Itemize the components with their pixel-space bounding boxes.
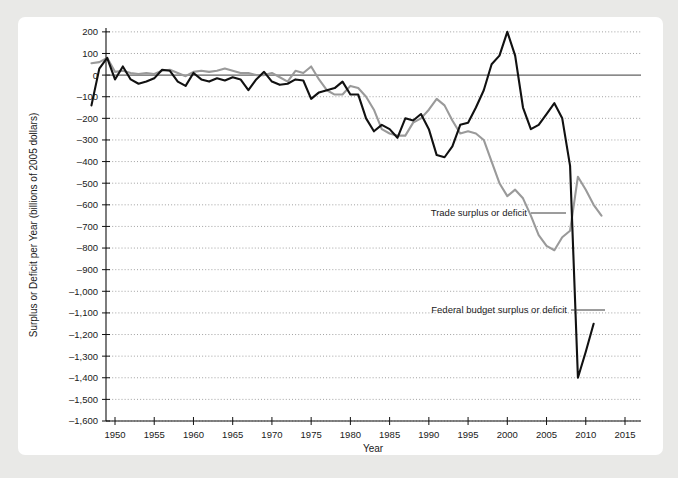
y-tick-label-12: –1,000 [69, 286, 98, 297]
x-tick-label-9: 1995 [458, 429, 479, 440]
y-tick-labels-group: 2001000–100–200–300–400–500–600–700–800–… [69, 26, 98, 426]
x-tick-label-4: 1970 [261, 429, 282, 440]
federal-annotation-text: Federal budget surplus or deficit [431, 304, 567, 315]
x-tick-label-6: 1980 [340, 429, 361, 440]
x-tick-label-10: 2000 [497, 429, 518, 440]
x-tick-label-1: 1955 [144, 429, 165, 440]
y-tick-label-18: –1,600 [69, 415, 98, 426]
y-tick-label-0: 200 [82, 26, 98, 37]
x-tick-label-12: 2010 [575, 429, 596, 440]
y-tick-label-14: –1,200 [69, 329, 98, 340]
y-tick-label-9: –700 [77, 221, 98, 232]
trade-annotation-text: Trade surplus or deficit [431, 207, 528, 218]
x-tick-label-2: 1960 [183, 429, 204, 440]
y-tick-label-13: –1,100 [69, 307, 98, 318]
y-tick-label-5: –300 [77, 134, 98, 145]
y-tick-label-16: –1,400 [69, 372, 98, 383]
x-tick-label-5: 1975 [301, 429, 322, 440]
gridlines-group [106, 32, 641, 421]
x-tick-label-8: 1990 [418, 429, 439, 440]
y-tick-label-6: –400 [77, 156, 98, 167]
y-tick-label-10: –800 [77, 242, 98, 253]
y-tick-label-7: –500 [77, 178, 98, 189]
y-tick-label-1: 100 [82, 48, 98, 59]
x-tick-label-0: 1950 [104, 429, 125, 440]
x-axis-title: Year [363, 443, 384, 454]
x-tick-label-11: 2005 [536, 429, 557, 440]
y-axis-title: Surplus or Deficit per Year (billions of… [28, 113, 39, 338]
annotations-group: Trade surplus or deficitFederal budget s… [431, 207, 605, 315]
x-tick-label-13: 2015 [614, 429, 635, 440]
chart-plot: 2001000–100–200–300–400–500–600–700–800–… [0, 0, 678, 478]
figure-root: 2001000–100–200–300–400–500–600–700–800–… [0, 0, 678, 478]
y-tick-label-4: –200 [77, 113, 98, 124]
y-tick-label-17: –1,500 [69, 394, 98, 405]
y-tick-label-8: –600 [77, 199, 98, 210]
x-tick-label-7: 1985 [379, 429, 400, 440]
y-tick-label-11: –900 [77, 264, 98, 275]
y-tick-label-15: –1,300 [69, 351, 98, 362]
x-tick-labels-group: 1950195519601965197019751980198519901995… [104, 429, 635, 440]
x-tick-label-3: 1965 [222, 429, 243, 440]
